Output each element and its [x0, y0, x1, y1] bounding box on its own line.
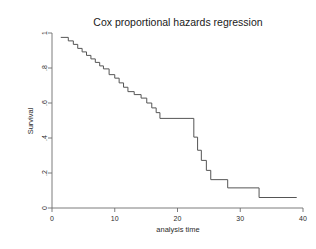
x-tick-label: 40 [299, 215, 307, 222]
x-tick-label: 30 [236, 215, 244, 222]
y-tick-label: .8 [41, 65, 48, 71]
x-axis-title: analysis time [156, 225, 199, 234]
x-tick-label: 0 [50, 215, 54, 222]
plot-background [0, 0, 316, 249]
y-tick-label: .4 [41, 135, 48, 141]
chart-figure: Cox proportional hazards regression 0.2.… [0, 0, 316, 249]
y-tick-label: .2 [41, 170, 48, 176]
y-tick-label: .6 [41, 100, 48, 106]
y-tick-label: 1 [41, 31, 48, 35]
x-tick-label: 10 [111, 215, 119, 222]
chart-title: Cox proportional hazards regression [93, 16, 262, 28]
y-tick-label: 0 [41, 206, 48, 210]
y-axis-title: Survival [26, 107, 35, 134]
survival-plot: Cox proportional hazards regression 0.2.… [0, 0, 316, 249]
x-tick-label: 20 [174, 215, 182, 222]
